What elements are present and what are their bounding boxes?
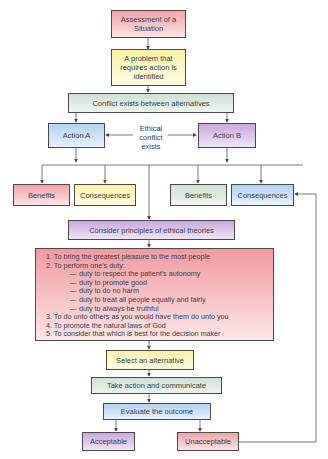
action-a-box: Action A [48, 123, 105, 148]
conflict-label: Conflict exists between alternatives [92, 99, 209, 108]
action-b-benefits-label: Benefits [185, 191, 212, 200]
select-alternative-box: Select an alternative [106, 350, 194, 370]
action-a-label: Action A [63, 131, 91, 140]
evaluate-outcome-label: Evaluate the outcome [121, 407, 194, 416]
consider-principles-label: Consider principles of ethical theories [89, 226, 214, 235]
action-b-label: Action B [213, 131, 241, 140]
action-b-box: Action B [198, 123, 256, 148]
consider-principles-box: Consider principles of ethical theories [68, 220, 235, 240]
principle-item: 5. To consider that which is best for th… [46, 330, 267, 339]
take-action-box: Take action and communicate [91, 377, 222, 394]
problem-label: A problem that requires action is identi… [118, 54, 179, 81]
evaluate-outcome-box: Evaluate the outcome [103, 403, 211, 420]
unacceptable-label: Unacceptable [185, 437, 231, 446]
unacceptable-box: Unacceptable [177, 432, 239, 451]
action-b-consequences-label: Consequences [237, 191, 287, 200]
problem-box: A problem that requires action is identi… [111, 49, 186, 86]
action-b-benefits-box: Benefits [170, 184, 227, 206]
take-action-label: Take action and communicate [107, 381, 206, 390]
select-alternative-label: Select an alternative [116, 356, 184, 365]
ethical-conflict-label: Ethical conflict exists [133, 124, 169, 151]
conflict-box: Conflict exists between alternatives [68, 93, 234, 113]
assessment-label: Assessment of a Situation [112, 15, 185, 33]
action-a-consequences-label: Consequences [80, 191, 130, 200]
acceptable-box: Acceptable [82, 432, 135, 451]
ethical-theories-list: 1. To bring the greatest pleasure to the… [35, 248, 274, 341]
action-a-benefits-box: Benefits [13, 184, 70, 206]
assessment-box: Assessment of a Situation [111, 10, 186, 38]
action-b-consequences-box: Consequences [231, 184, 294, 206]
action-a-benefits-label: Benefits [28, 191, 55, 200]
action-a-consequences-box: Consequences [74, 184, 136, 206]
acceptable-label: Acceptable [90, 437, 127, 446]
